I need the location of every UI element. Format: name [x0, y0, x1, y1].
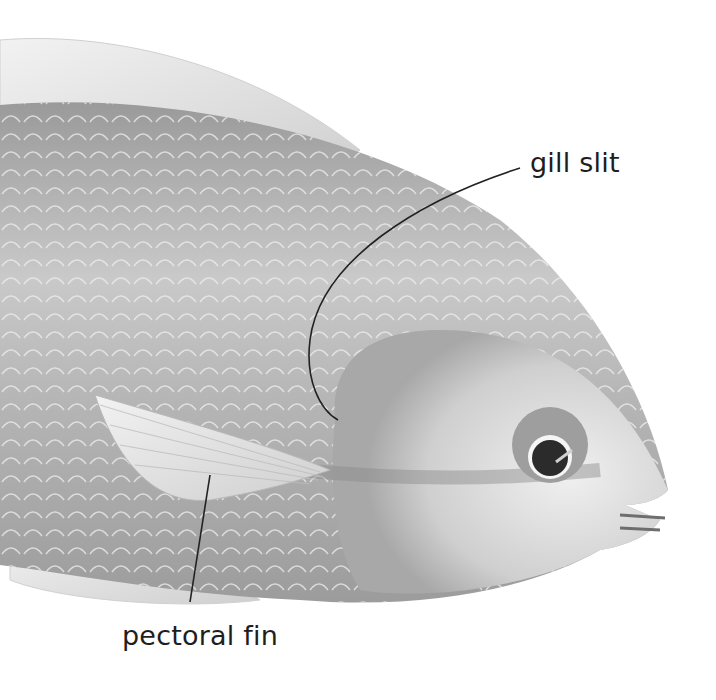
- eye: [512, 407, 588, 483]
- label-pectoral-fin: pectoral fin: [122, 620, 278, 651]
- label-gill-slit: gill slit: [530, 147, 620, 178]
- fish-illustration: [0, 0, 716, 700]
